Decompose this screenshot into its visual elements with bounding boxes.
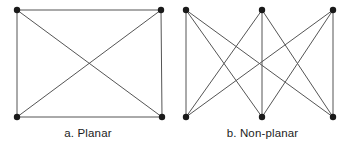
graph-node xyxy=(259,7,265,13)
graph-node xyxy=(183,114,189,120)
graph-node xyxy=(159,114,165,120)
figure-root: a. Planar b. Non-planar xyxy=(0,0,349,149)
graph-node xyxy=(14,114,20,120)
graph-node xyxy=(330,114,336,120)
graph-node xyxy=(158,7,164,13)
caption-planar: a. Planar xyxy=(0,126,176,140)
graph-edge xyxy=(161,10,162,117)
nodes-layer xyxy=(14,7,336,120)
caption-nonplanar: b. Non-planar xyxy=(176,126,349,140)
graph-node xyxy=(183,7,189,13)
graph-node xyxy=(14,7,20,13)
graph-node xyxy=(259,114,265,120)
edges-layer xyxy=(17,10,333,117)
graph-node xyxy=(330,7,336,13)
